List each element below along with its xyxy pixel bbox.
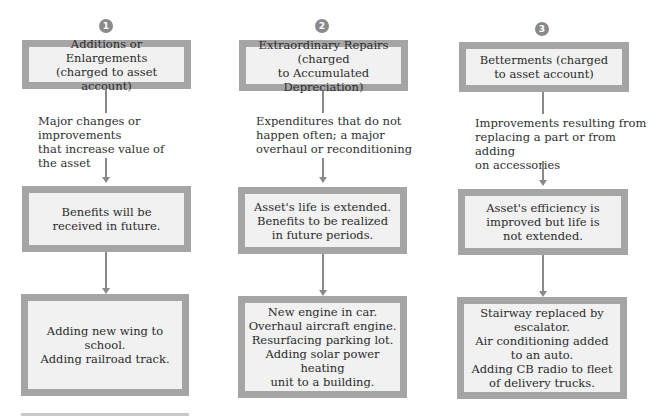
down-arrow-icon [542,161,544,181]
header-box: Additions or Enlargements (charged to as… [22,40,191,89]
examples-box: Adding new wing to school. Adding railro… [21,294,189,396]
examples-text: Stairway replaced by escalator. Air cond… [464,304,620,392]
effect-box: Asset's life is extended. Benefits to be… [238,187,407,254]
description-text: Expenditures that do not happen often; a… [256,114,431,156]
effect-box: Asset's efficiency is improved but life … [458,189,628,255]
description-text: Major changes or improvements that incre… [38,114,213,170]
connector-line [542,92,544,114]
header-text: Extraordinary Repairs (charged to Accumu… [246,47,401,84]
header-text: Additions or Enlargements (charged to as… [29,47,184,82]
examples-text: New engine in car. Overhaul aircraft eng… [245,303,400,391]
step-number-badge: 3 [535,22,549,36]
divider [21,413,189,416]
down-arrow-icon [322,158,324,178]
examples-text: Adding new wing to school. Adding railro… [28,301,182,389]
down-arrow-icon [105,158,107,178]
effect-text: Asset's efficiency is improved but life … [465,196,621,248]
connector-line [105,89,107,113]
header-box: Betterments (charged to asset account) [459,42,629,92]
header-text: Betterments (charged to asset account) [466,49,622,85]
step-number-badge: 2 [315,19,329,33]
down-arrow-icon [322,254,324,291]
header-box: Extraordinary Repairs (charged to Accumu… [239,40,408,91]
effect-text: Benefits will be received in future. [29,193,184,245]
effect-text: Asset's life is extended. Benefits to be… [245,194,400,247]
down-arrow-icon [542,255,544,292]
examples-box: New engine in car. Overhaul aircraft eng… [238,296,407,398]
description-text: Improvements resulting from replacing a … [475,116,650,172]
examples-box: Stairway replaced by escalator. Air cond… [457,297,627,399]
down-arrow-icon [105,252,107,289]
connector-line [322,91,324,113]
step-number-badge: 1 [99,19,113,33]
effect-box: Benefits will be received in future. [22,186,191,252]
